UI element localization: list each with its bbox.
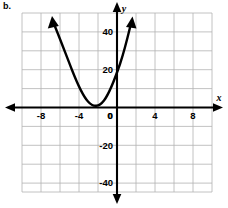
x-tick-label: 4 xyxy=(152,110,158,121)
y-tick-label: 20 xyxy=(102,64,113,75)
y-axis-bottom-arrowhead xyxy=(113,194,122,204)
x-tick-label: 8 xyxy=(190,110,195,121)
y-tick-label: 0 xyxy=(108,110,113,121)
y-axis-top-arrowhead xyxy=(113,2,122,12)
y-tick-label: -20 xyxy=(99,140,113,151)
y-tick-label: -40 xyxy=(99,177,113,188)
y-axis-name-label: y xyxy=(121,3,127,14)
x-axis-right-arrowhead xyxy=(213,103,223,112)
x-tick-label: -8 xyxy=(37,110,45,121)
x-tick-label: -4 xyxy=(75,110,84,121)
figure-container: b. xyxy=(0,0,228,208)
x-axis-left-arrowhead xyxy=(5,103,15,112)
curve-right-arrowhead xyxy=(126,17,137,29)
x-axis-name-label: x xyxy=(216,92,222,103)
parabola-curve xyxy=(48,16,137,106)
curve-left-arrowhead xyxy=(48,16,59,29)
coordinate-plane-graph: -8 -4 0 4 8 40 20 0 -20 -40 x y xyxy=(0,0,228,208)
y-tick-label: 40 xyxy=(102,26,113,37)
